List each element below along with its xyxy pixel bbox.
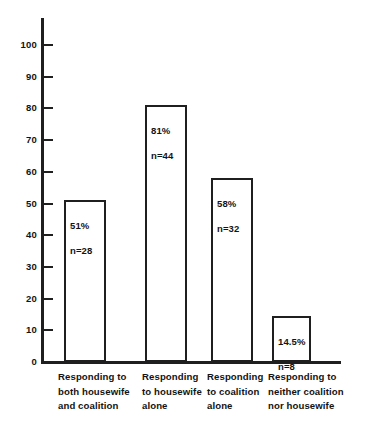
y-axis-tick-label: 100 (7, 40, 37, 50)
y-axis-tick-label: 20 (7, 294, 37, 304)
y-axis-tick-label: 90 (7, 72, 37, 82)
y-axis-tick (44, 107, 53, 109)
y-axis-tick (44, 234, 53, 236)
bar-responding-housewife (145, 105, 187, 362)
y-axis-line (41, 18, 44, 364)
bar-count-label: n=44 (151, 151, 173, 161)
y-axis-tick-label: 60 (7, 167, 37, 177)
bar-count-label: n=32 (217, 224, 239, 234)
category-label: Responding to housewife alone (142, 370, 202, 414)
y-axis-tick (44, 139, 53, 141)
y-axis-tick (44, 266, 53, 268)
y-axis-tick-label: 40 (7, 230, 37, 240)
y-axis-tick (44, 44, 53, 46)
y-axis-tick-label: 50 (7, 199, 37, 209)
y-axis-tick-label: 0 (7, 357, 37, 367)
y-axis-tick (44, 298, 53, 300)
bar-value-label: 51% (70, 221, 89, 231)
y-axis-tick-label: 10 (7, 325, 37, 335)
y-axis-tick-label: 30 (7, 262, 37, 272)
y-axis-tick (44, 76, 53, 78)
y-axis-tick (44, 361, 53, 363)
category-label: Responding to neither coalition nor hous… (268, 370, 344, 414)
y-axis-tick (44, 203, 53, 205)
category-label: Responding to both housewife and coaliti… (58, 370, 130, 414)
y-axis-tick-label: 80 (7, 103, 37, 113)
y-axis-tick (44, 329, 53, 331)
bar-chart: 1009080706050403020100 51% n=28 81% n=44… (0, 0, 369, 438)
y-axis-tick-label: 70 (7, 135, 37, 145)
bar-value-label: 81% (151, 126, 170, 136)
category-label: Responding to coalition alone (207, 370, 263, 414)
bar-value-label: 58% (217, 199, 236, 209)
bar-value-label: 14.5% (278, 337, 305, 347)
bar-count-label: n=28 (70, 246, 92, 256)
y-axis-tick (44, 171, 53, 173)
